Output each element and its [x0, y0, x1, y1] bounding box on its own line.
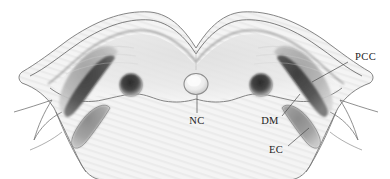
label-ec: EC — [269, 144, 283, 155]
label-nc: NC — [189, 115, 204, 126]
label-pcc: PCC — [355, 51, 376, 62]
label-dm: DM — [261, 115, 279, 126]
cross-section-diagram: PCC NC DM EC — [0, 0, 390, 179]
midline-neural-canal-group — [184, 74, 208, 95]
right-flank-lower-line — [330, 132, 362, 150]
left-flank-lower-line — [30, 132, 62, 150]
anatomical-figure: PCC NC DM EC — [0, 0, 390, 179]
neural-canal-inner-highlight — [187, 76, 201, 87]
